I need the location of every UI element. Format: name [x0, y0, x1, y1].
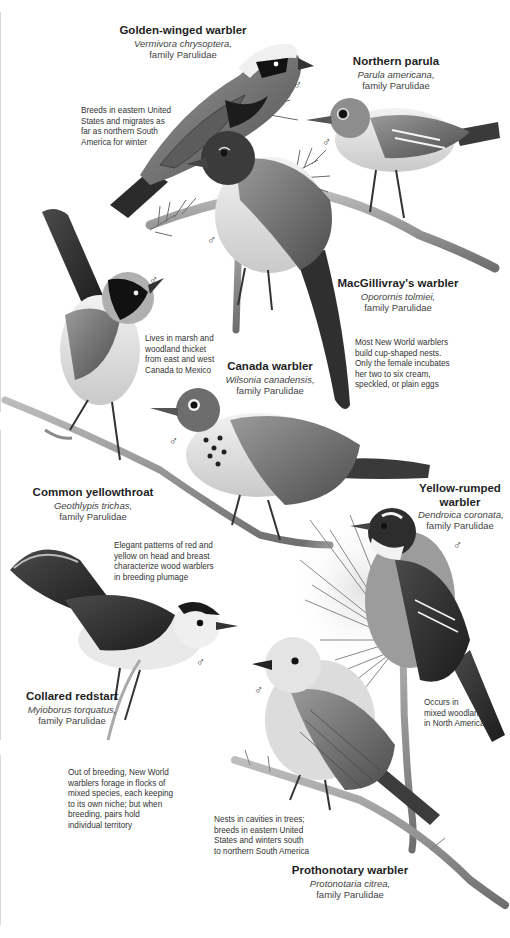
male-symbol-icon: ♂	[254, 684, 263, 696]
scientific-name: Dendroica coronata,	[418, 509, 502, 520]
note-line: yellow on head and breast	[114, 552, 214, 563]
note-line: Canada to Mexico	[145, 366, 214, 377]
common-name-line2: warbler	[418, 496, 502, 510]
male-symbol-icon: ♂	[453, 539, 462, 551]
male-symbol-icon: ♂	[196, 656, 205, 668]
common-name: Golden-winged warbler	[118, 24, 248, 38]
note-line: Only the female incubates	[355, 359, 450, 370]
label-prothonotary-warbler: Prothonotary warbler Protonotaria citrea…	[285, 864, 415, 900]
note-line: Nests in cavities in trees;	[214, 815, 309, 826]
note-line: characterize wood warblers	[114, 562, 214, 573]
note-foraging: Out of breeding, New World warblers fora…	[68, 768, 173, 831]
note-line: individual territory	[68, 821, 173, 832]
family-name: family Parulidae	[118, 49, 248, 60]
family-name: family Parulidae	[346, 80, 446, 91]
note-line: Lives in marsh and	[145, 334, 214, 345]
family-name: family Parulidae	[333, 302, 463, 313]
note-line: from east and west	[145, 355, 214, 366]
note-line: breeding, pairs hold	[68, 810, 173, 821]
scientific-name: Oporornis tolmiei,	[333, 291, 463, 302]
scientific-name: Protonotaria citrea,	[285, 878, 415, 889]
common-name: Prothonotary warbler	[285, 864, 415, 878]
note-line: to its own niche; but when	[68, 800, 173, 811]
male-symbol-icon: ♂	[149, 274, 158, 286]
note-golden-winged-range: Breeds in eastern United States and migr…	[81, 106, 171, 148]
male-symbol-icon: ♂	[207, 234, 216, 246]
male-symbol-icon: ♂	[293, 79, 302, 91]
note-line: mixed species, each keeping	[68, 789, 173, 800]
note-line: States and migrates as	[81, 117, 171, 128]
note-line: her two to six cream,	[355, 370, 450, 381]
common-name: Common yellowthroat	[28, 486, 158, 500]
common-name: Canada warbler	[220, 360, 320, 374]
family-name: family Parulidae	[28, 511, 158, 522]
note-line: Breeds in eastern United	[81, 106, 171, 117]
label-collared-redstart: Collared redstart Myioborus torquatus, f…	[22, 690, 122, 726]
note-line: Most New World warblers	[355, 338, 450, 349]
note-line: build cup-shaped nests.	[355, 349, 450, 360]
scientific-name: Parula americana,	[346, 69, 446, 80]
note-line: America for winter	[81, 138, 171, 149]
note-line: woodland thicket	[145, 345, 214, 356]
male-symbol-icon: ♂	[169, 435, 178, 447]
note-yellowthroat-habitat: Lives in marsh and woodland thicket from…	[145, 334, 214, 376]
common-name: Northern parula	[346, 55, 446, 69]
note-line: warblers forage in flocks of	[68, 779, 173, 790]
note-line: to northern South America	[214, 847, 309, 858]
note-yellow-rumped-habitat: Occurs in mixed woodland in North Americ…	[424, 698, 485, 730]
label-canada-warbler: Canada warbler Wilsonia canadensis, fami…	[220, 360, 320, 396]
label-common-yellowthroat: Common yellowthroat Geothlypis trichas, …	[28, 486, 158, 522]
family-name: family Parulidae	[220, 385, 320, 396]
family-name: family Parulidae	[22, 715, 122, 726]
note-line: in North America	[424, 719, 485, 730]
scientific-name: Vermivora chrysoptera,	[118, 38, 248, 49]
scientific-name: Myioborus torquatus,	[22, 704, 122, 715]
label-yellow-rumped-warbler: Yellow-rumped warbler Dendroica coronata…	[418, 482, 502, 532]
common-name-line1: Yellow-rumped	[418, 482, 502, 496]
label-macgillivrays-warbler: MacGillivray's warbler Oporornis tolmiei…	[333, 277, 463, 313]
label-golden-winged-warbler: Golden-winged warbler Vermivora chrysopt…	[118, 24, 248, 60]
family-name: family Parulidae	[418, 520, 502, 531]
note-line: Elegant patterns of red and	[114, 541, 214, 552]
male-symbol-icon: ♂	[322, 136, 331, 148]
family-name: family Parulidae	[285, 889, 415, 900]
note-line: in breeding plumage	[114, 573, 214, 584]
note-line: speckled, or plain eggs	[355, 380, 450, 391]
note-line: mixed woodland	[424, 709, 485, 720]
note-prothonotary-range: Nests in cavities in trees; breeds in ea…	[214, 815, 309, 857]
note-plumage: Elegant patterns of red and yellow on he…	[114, 541, 214, 583]
scientific-name: Geothlypis trichas,	[28, 500, 158, 511]
note-line: far as northern South	[81, 127, 171, 138]
note-line: Out of breeding, New World	[68, 768, 173, 779]
label-northern-parula: Northern parula Parula americana, family…	[346, 55, 446, 91]
note-line: Occurs in	[424, 698, 485, 709]
note-line: States and winters south	[214, 836, 309, 847]
note-line: breeds in eastern United	[214, 826, 309, 837]
common-name: MacGillivray's warbler	[333, 277, 463, 291]
common-name: Collared redstart	[22, 690, 122, 704]
scientific-name: Wilsonia canadensis,	[220, 374, 320, 385]
note-nests: Most New World warblers build cup-shaped…	[355, 338, 450, 391]
